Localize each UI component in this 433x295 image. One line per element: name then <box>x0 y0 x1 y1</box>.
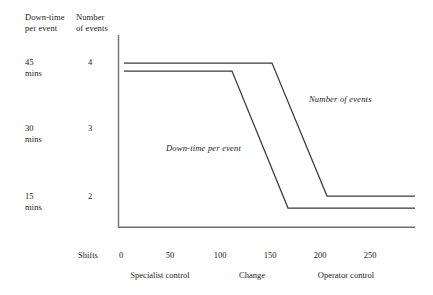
x-tick-150: 150 <box>264 250 277 260</box>
annotation-down-time-per-event: Down-time per event <box>166 143 241 153</box>
x-axis-title: Shifts <box>78 250 98 260</box>
series-line-down-time-per-event <box>124 71 415 208</box>
phase-label-specialist-control: Specialist control <box>130 270 189 280</box>
x-tick-50: 50 <box>166 250 175 260</box>
chart-figure: Down-time per event Number of events 45 … <box>0 0 433 295</box>
annotation-number-of-events: Number of events <box>309 94 372 104</box>
phase-label-operator-control: Operator control <box>318 270 374 280</box>
x-tick-100: 100 <box>214 250 227 260</box>
x-tick-0: 0 <box>119 250 123 260</box>
series-line-number-of-events <box>124 63 415 196</box>
phase-label-change: Change <box>239 270 265 280</box>
x-tick-250: 250 <box>364 250 377 260</box>
x-tick-200: 200 <box>314 250 327 260</box>
